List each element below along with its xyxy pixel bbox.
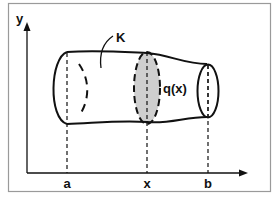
left-end-hidden-arc	[79, 64, 87, 116]
solid-of-revolution-diagram: y K q(x) a x b	[0, 0, 273, 200]
x-tick-label-a: a	[63, 177, 70, 190]
x-tick-label-b: b	[204, 177, 212, 190]
x-axis-arrow-icon	[239, 170, 248, 177]
solid-label: K	[116, 31, 125, 44]
diagram-canvas	[0, 0, 273, 200]
solid-top-contour	[67, 51, 207, 64]
y-axis-arrow-icon	[24, 22, 31, 31]
solid-bottom-contour	[67, 117, 207, 124]
x-tick-label-x: x	[143, 177, 150, 190]
y-axis-label: y	[16, 12, 23, 25]
cross-section-label: q(x)	[163, 82, 187, 95]
left-end-arc	[53, 52, 67, 124]
